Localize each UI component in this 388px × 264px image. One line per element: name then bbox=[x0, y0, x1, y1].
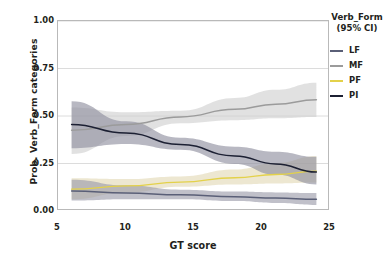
legend-swatch-icon bbox=[330, 95, 343, 97]
legend-subtitle: (95% CI) bbox=[326, 23, 388, 34]
y-axis-tick-label: 0.75 bbox=[20, 63, 54, 73]
plot-svg bbox=[58, 21, 329, 210]
x-axis-tick-label: 20 bbox=[246, 222, 276, 232]
legend-swatch-icon bbox=[330, 80, 343, 82]
y-axis-tick-label: 0.00 bbox=[20, 205, 54, 215]
x-axis-tick-label: 15 bbox=[178, 222, 208, 232]
x-axis-title: GT score bbox=[57, 240, 329, 251]
legend-item-mf[interactable]: MF bbox=[330, 58, 388, 73]
legend-swatch-icon bbox=[330, 50, 343, 52]
legend-items: LFMFPFPI bbox=[330, 43, 388, 103]
legend-item-pf[interactable]: PF bbox=[330, 73, 388, 88]
legend-title: Verb_Form bbox=[326, 12, 388, 23]
y-axis-tick-label: 0.50 bbox=[20, 110, 54, 120]
figure: Prob. Verb_Form categories 0.000.250.500… bbox=[0, 0, 388, 264]
x-axis-tick-label: 10 bbox=[110, 222, 140, 232]
y-axis-tick-label: 0.25 bbox=[20, 158, 54, 168]
legend-item-label: MF bbox=[349, 61, 363, 69]
legend-swatch-icon bbox=[330, 65, 343, 67]
plot-panel bbox=[57, 20, 329, 210]
legend-item-label: PI bbox=[349, 91, 358, 99]
legend-item-lf[interactable]: LF bbox=[330, 43, 388, 58]
legend-item-label: LF bbox=[349, 46, 360, 54]
x-axis-tick-label: 5 bbox=[42, 222, 72, 232]
legend-item-pi[interactable]: PI bbox=[330, 88, 388, 103]
legend: Verb_Form (95% CI) LFMFPFPI bbox=[330, 12, 388, 103]
legend-item-label: PF bbox=[349, 76, 361, 84]
y-axis-tick-label: 1.00 bbox=[20, 15, 54, 25]
x-axis-tick-label: 25 bbox=[314, 222, 344, 232]
